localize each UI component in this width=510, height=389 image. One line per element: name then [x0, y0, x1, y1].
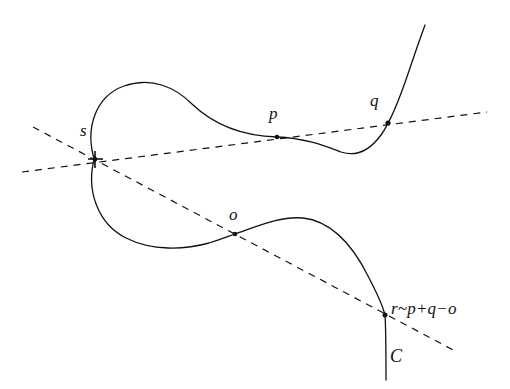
curve-lower-branch	[92, 156, 386, 380]
node-marker-s	[88, 151, 103, 168]
label-curve-c: C	[390, 347, 402, 365]
label-point-s: s	[80, 122, 87, 139]
secant-line-sor	[33, 127, 457, 352]
point-marker-r	[383, 313, 388, 318]
label-point-p: p	[269, 105, 278, 122]
label-relation-r: r~p+q−o	[391, 300, 457, 317]
label-point-q: q	[370, 92, 379, 109]
secant-line-pq	[22, 112, 487, 172]
label-point-o: o	[229, 206, 238, 223]
figure-canvas: s p q o r~p+q−o C	[0, 0, 510, 389]
point-marker-p	[275, 135, 280, 140]
curve-diagram-svg	[0, 0, 510, 389]
point-marker-q	[385, 120, 390, 125]
point-marker-o	[233, 232, 238, 237]
